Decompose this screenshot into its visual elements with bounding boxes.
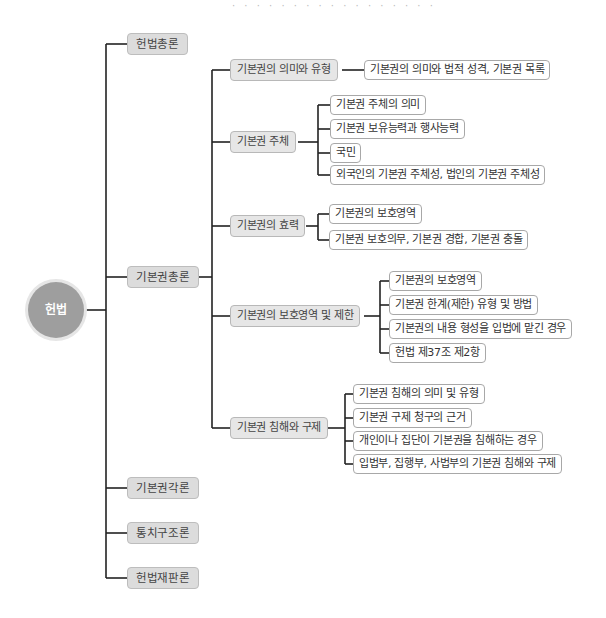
leaf-label: 입법부, 집행부, 사법부의 기본권 침해와 구제: [359, 457, 556, 470]
leaf-label: 헌법 제37조 제2항: [395, 346, 480, 359]
topic-node-infringement-remedy[interactable]: 기본권 침해와 구제: [230, 417, 328, 439]
leaf-label: 국민: [336, 146, 355, 159]
branch-label: 기본권총론: [136, 270, 190, 284]
topic-label: 기본권의 효력: [237, 219, 298, 232]
leaf-node[interactable]: 기본권 보유능력과 행사능력: [330, 119, 465, 139]
leaf-node[interactable]: 국민: [330, 143, 361, 163]
branch-label: 통치구조론: [136, 526, 190, 540]
leaf-label: 기본권 침해의 의미 및 유형: [359, 387, 479, 400]
leaf-label: 기본권 보유능력과 행사능력: [336, 122, 459, 135]
topic-label: 기본권 침해와 구제: [237, 421, 321, 434]
topic-label: 기본권 주체: [237, 135, 289, 148]
topic-label: 기본권의 의미와 유형: [237, 63, 331, 76]
topic-node-effect[interactable]: 기본권의 효력: [230, 215, 305, 237]
leaf-label: 기본권의 보호영역: [335, 207, 416, 220]
leaf-node[interactable]: 개인이나 집단이 기본권을 침해하는 경우: [353, 431, 543, 451]
topic-node-scope-limits[interactable]: 기본권의 보호영역 및 제한: [230, 305, 360, 327]
leaf-label: 기본권의 보호영역: [395, 274, 476, 287]
branch-node-constitutional-court[interactable]: 헌법재판론: [127, 567, 199, 589]
branch-node-constitution-general[interactable]: 헌법총론: [127, 33, 188, 55]
leaf-label: 기본권 한계(제한) 유형 및 방법: [395, 298, 532, 311]
leaf-label: 기본권 구제 청구의 근거: [359, 411, 466, 424]
leaf-label: 개인이나 집단이 기본권을 침해하는 경우: [359, 434, 537, 447]
leaf-node[interactable]: 기본권 구제 청구의 근거: [353, 408, 472, 428]
leaf-node[interactable]: 외국인의 기본권 주체성, 법인의 기본권 주체성: [330, 165, 545, 185]
leaf-node[interactable]: 기본권 보호의무, 기본권 경합, 기본권 충돌: [329, 230, 528, 250]
leaf-label: 기본권 주체의 의미: [336, 98, 420, 111]
leaf-label: 기본권의 내용 형성을 입법에 맡긴 경우: [395, 322, 566, 335]
leaf-node[interactable]: 기본권의 의미와 법적 성격, 기본권 목록: [364, 60, 550, 80]
branch-node-basic-rights-general[interactable]: 기본권총론: [127, 266, 199, 288]
topic-label: 기본권의 보호영역 및 제한: [237, 309, 353, 322]
leaf-label: 기본권의 의미와 법적 성격, 기본권 목록: [370, 63, 544, 76]
leaf-label: 기본권 보호의무, 기본권 경합, 기본권 충돌: [335, 233, 522, 246]
leaf-node[interactable]: 기본권의 내용 형성을 입법에 맡긴 경우: [389, 319, 572, 339]
branch-node-basic-rights-specific[interactable]: 기본권각론: [127, 477, 199, 499]
leaf-node[interactable]: 기본권 한계(제한) 유형 및 방법: [389, 295, 538, 315]
topic-node-meaning-types[interactable]: 기본권의 의미와 유형: [230, 59, 338, 81]
leaf-node[interactable]: 기본권 침해의 의미 및 유형: [353, 384, 485, 404]
root-node[interactable]: 헌법: [28, 282, 84, 338]
branch-node-governance-structure[interactable]: 통치구조론: [127, 522, 199, 544]
leaf-node[interactable]: 기본권 주체의 의미: [330, 95, 426, 115]
branch-label: 헌법재판론: [136, 571, 190, 585]
leaf-node[interactable]: 기본권의 보호영역: [389, 271, 482, 291]
branch-label: 헌법총론: [136, 37, 179, 51]
leaf-node[interactable]: 헌법 제37조 제2항: [389, 343, 486, 363]
root-label: 헌법: [45, 302, 66, 318]
leaf-node[interactable]: 기본권의 보호영역: [329, 204, 422, 224]
branch-label: 기본권각론: [136, 481, 190, 495]
leaf-node[interactable]: 입법부, 집행부, 사법부의 기본권 침해와 구제: [353, 454, 562, 474]
leaf-label: 외국인의 기본권 주체성, 법인의 기본권 주체성: [336, 168, 539, 181]
topic-node-subject[interactable]: 기본권 주체: [230, 131, 296, 153]
